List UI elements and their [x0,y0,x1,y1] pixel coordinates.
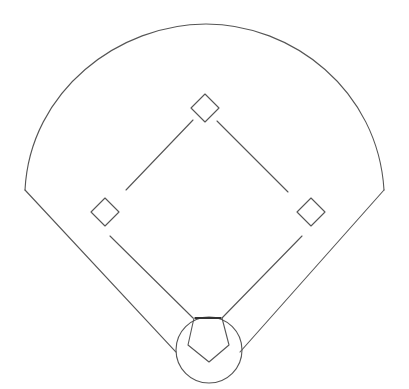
basepath-second-to-first [217,121,288,192]
right-foul-line [240,190,384,352]
first-base [297,198,325,226]
home-plate [188,318,229,362]
basepath-third-to-home [110,236,193,318]
home-plate-circle [176,317,242,383]
outfield-arc [25,24,384,190]
baseball-field-diagram: Baseball field diagram [0,0,409,389]
field-svg [0,0,409,389]
basepath-first-to-home [222,236,302,318]
left-foul-line [25,190,176,352]
second-base [191,94,219,122]
third-base [91,198,119,226]
basepath-second-to-third [126,120,193,190]
